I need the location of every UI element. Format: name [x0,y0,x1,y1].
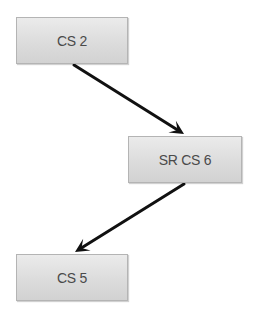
node-sr-cs-6[interactable]: SR CS 6 [128,136,242,183]
node-cs-2[interactable]: CS 2 [16,17,128,64]
node-label: CS 2 [57,33,87,49]
node-label: SR CS 6 [159,152,211,168]
node-cs-5[interactable]: CS 5 [16,254,128,301]
node-label: CS 5 [57,270,87,286]
arrow-cs2-to-srcs6 [74,65,177,130]
arrow-srcs6-to-cs5 [82,184,184,248]
